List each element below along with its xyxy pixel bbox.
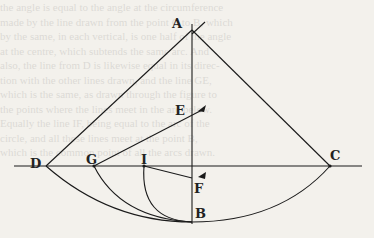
geometric-figure: A E D G I C F B [0, 0, 374, 238]
label-G: G [86, 152, 97, 167]
point-C-marker [328, 164, 331, 167]
label-C: C [330, 148, 340, 163]
label-I: I [141, 152, 147, 167]
arrow-F-icon [198, 172, 206, 179]
line-AD [46, 30, 192, 166]
label-F: F [194, 181, 204, 196]
label-D: D [30, 156, 41, 171]
arc-IB [144, 166, 192, 222]
arrow-E-icon [198, 105, 206, 112]
line-IF [144, 166, 192, 178]
line-GE [94, 110, 202, 166]
label-A: A [171, 16, 183, 31]
arc-DB [46, 166, 192, 222]
label-B: B [195, 206, 206, 221]
line-AC [192, 30, 330, 166]
tick-A [192, 22, 205, 34]
label-E: E [175, 103, 185, 118]
arc-CB [192, 166, 330, 222]
